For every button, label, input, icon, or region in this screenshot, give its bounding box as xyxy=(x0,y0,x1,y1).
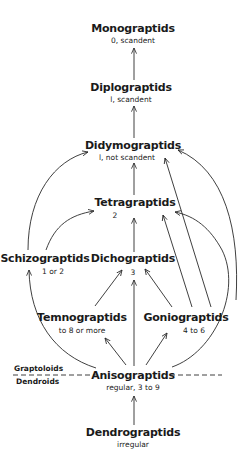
node-title: Tetragraptids xyxy=(94,196,176,209)
node-subtitle: irregular xyxy=(117,440,150,449)
node-subtitle: 3 xyxy=(131,268,136,277)
node-dichograptids: Dichograptids 3 xyxy=(91,252,176,277)
node-didymograptids: Didymograptids l, not scandent xyxy=(85,139,182,162)
node-title: Goniograptids xyxy=(143,311,229,324)
node-subtitle: 0, scandent xyxy=(111,36,155,45)
node-subtitle: 4 to 6 xyxy=(183,326,205,335)
node-dendrograptids: Dendrograptids irregular xyxy=(86,426,181,449)
node-title: Diplograptids xyxy=(90,81,172,94)
node-schizograptids: Schizograptids 1 or 2 xyxy=(0,252,90,276)
edge-anisograptids-goniograptids xyxy=(146,333,167,365)
edge-goniograptids-dichograptids xyxy=(145,269,172,307)
node-subtitle: 1 or 2 xyxy=(42,267,64,276)
label-graptoloids: Graptoloids xyxy=(14,364,64,373)
node-goniograptids: Goniograptids 4 to 6 xyxy=(143,311,229,335)
edge-temnograptids-dichograptids xyxy=(95,270,122,306)
node-title: Dichograptids xyxy=(91,252,176,265)
edge-anisograptids-tetragraptids xyxy=(172,212,229,367)
node-subtitle: l, scandent xyxy=(110,95,151,104)
node-diplograptids: Diplograptids l, scandent xyxy=(90,81,172,104)
node-title: Didymograptids xyxy=(85,139,182,152)
node-title: Monograptids xyxy=(91,22,175,35)
node-tetragraptids: Tetragraptids 2 xyxy=(94,196,176,220)
node-title: Temnograptids xyxy=(37,311,127,324)
edge-schizograptids-tetragraptids xyxy=(46,211,94,250)
node-title: Dendrograptids xyxy=(86,426,181,439)
node-subtitle: to 8 or more xyxy=(59,326,106,335)
graptolite-evolution-diagram: Graptoloids Dendroids Monograptids 0, sc… xyxy=(0,0,250,474)
node-monograptids: Monograptids 0, scandent xyxy=(91,22,175,45)
node-title: Schizograptids xyxy=(0,252,90,265)
edge-anisograptids-didymograptids xyxy=(178,150,237,300)
node-title: Anisograptids xyxy=(91,369,175,382)
edge-anisograptids-temnograptids xyxy=(105,338,126,365)
label-dendroids: Dendroids xyxy=(16,377,60,386)
node-temnograptids: Temnograptids to 8 or more xyxy=(37,311,127,335)
edge-goniograptids-didymograptids xyxy=(165,158,211,307)
edge-schizograptids-didymograptids xyxy=(28,152,88,250)
node-subtitle: 2 xyxy=(113,211,118,220)
node-subtitle: l, not scandent xyxy=(99,153,155,162)
node-anisograptids: Anisograptids regular, 3 to 9 xyxy=(91,369,175,392)
node-subtitle: regular, 3 to 9 xyxy=(106,383,160,392)
